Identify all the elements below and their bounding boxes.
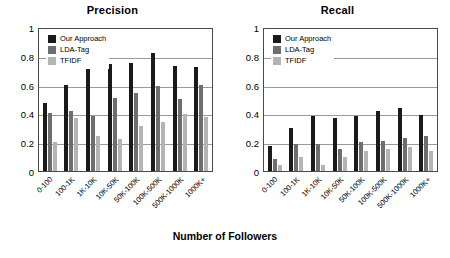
y-tick-1: 0.2 (21, 138, 34, 149)
y-axis-labels-precision: 0 0.2 0.4 0.6 0.8 1 (0, 28, 38, 172)
x-tick-cell: 500K-1000K (394, 172, 416, 226)
bar (48, 113, 52, 171)
legend-label: TFIDF (285, 57, 306, 65)
panel-row: Precision 0 0.2 0.4 0.6 0.8 1 Our Appro (0, 0, 450, 226)
x-tick-cell: 100-1K (60, 172, 82, 226)
bar-group (147, 29, 169, 171)
bar (161, 122, 165, 171)
x-tick-cell: 0-100 (263, 172, 285, 226)
y-tick-4: 0.8 (21, 51, 34, 62)
y-tick-0: 0 (254, 167, 259, 178)
bar (74, 118, 78, 171)
bar (86, 62, 90, 171)
legend-label: Our Approach (60, 35, 106, 43)
legend-precision: Our Approach LDA-Tag TFIDF (46, 32, 109, 69)
bar (183, 114, 187, 171)
bar-group (394, 29, 416, 171)
y-tick-1: 0.2 (246, 138, 259, 149)
x-tick-cell: 100-1K (285, 172, 307, 226)
bar (289, 128, 293, 171)
bar-group (351, 29, 373, 171)
bar-group (372, 29, 394, 171)
y-tick-3: 0.6 (21, 80, 34, 91)
panel-recall: Recall 0 0.2 0.4 0.6 0.8 1 Our Approach (225, 0, 450, 226)
legend-item: TFIDF (48, 56, 106, 66)
bar (338, 149, 342, 171)
y-tick-4: 0.8 (246, 51, 259, 62)
legend-swatch-icon (48, 46, 56, 54)
legend-label: Our Approach (285, 35, 331, 43)
panel-precision: Precision 0 0.2 0.4 0.6 0.8 1 Our Appro (0, 0, 225, 226)
x-tick-cell: 1000K+ (416, 172, 438, 226)
y-tick-2: 0.4 (246, 109, 259, 120)
y-tick-3: 0.6 (246, 80, 259, 91)
legend-recall: Our Approach LDA-Tag TFIDF (271, 32, 334, 69)
x-axis-labels-precision: 0-100100-1K1K-10K10K-50K50K-100K100K-500… (38, 172, 213, 226)
y-tick-0: 0 (29, 167, 34, 178)
legend-item: Our Approach (273, 34, 331, 44)
legend-item: TFIDF (273, 56, 331, 66)
legend-swatch-icon (48, 57, 56, 65)
x-tick-cell: 0-100 (38, 172, 60, 226)
bar (108, 64, 112, 171)
bar (273, 159, 277, 171)
legend-label: LDA-Tag (60, 46, 89, 54)
legend-swatch-icon (273, 46, 281, 54)
legend-item: Our Approach (48, 34, 106, 44)
bar (268, 146, 272, 171)
y-axis-labels-recall: 0 0.2 0.4 0.6 0.8 1 (225, 28, 263, 172)
figure: Precision 0 0.2 0.4 0.6 0.8 1 Our Appro (0, 0, 450, 258)
bar (204, 117, 208, 171)
bar (316, 144, 320, 171)
y-tick-2: 0.4 (21, 109, 34, 120)
legend-swatch-icon (48, 35, 56, 43)
panel-title-precision: Precision (0, 4, 225, 16)
legend-item: LDA-Tag (48, 45, 106, 55)
bar-group (126, 29, 148, 171)
y-tick-5: 1 (29, 23, 34, 34)
legend-label: TFIDF (60, 57, 81, 65)
x-tick-cell: 1000K+ (191, 172, 213, 226)
bar (151, 53, 155, 171)
x-axis-title: Number of Followers (0, 230, 450, 242)
x-tick-cell: 500K-1000K (169, 172, 191, 226)
bar (64, 85, 68, 171)
y-tick-5: 1 (254, 23, 259, 34)
x-axis-labels-recall: 0-100100-1K1K-10K10K-50K50K-100K100K-500… (263, 172, 438, 226)
bar (43, 103, 47, 171)
panel-title-recall: Recall (225, 4, 450, 16)
bar-group (169, 29, 191, 171)
legend-label: LDA-Tag (285, 46, 314, 54)
x-tick-label-text: 0-100 (260, 175, 280, 195)
bar (139, 126, 143, 171)
bar (69, 111, 73, 171)
legend-swatch-icon (273, 57, 281, 65)
bar (113, 98, 117, 171)
x-tick-label-text: 0-100 (35, 175, 55, 195)
legend-item: LDA-Tag (273, 45, 331, 55)
bar (294, 144, 298, 171)
legend-swatch-icon (273, 35, 281, 43)
